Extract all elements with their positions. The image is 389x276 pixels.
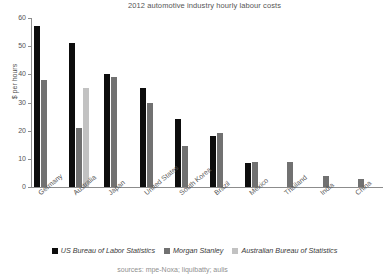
footer-note: sources: mpe-Noxa; liquibatty; aulis — [0, 266, 389, 276]
bar-group — [277, 18, 312, 187]
footer-note-text: sources: mpe-Noxa; liquibatty; aulis — [117, 266, 228, 273]
bar — [175, 119, 181, 187]
y-axis-tick-label: 0 — [2, 183, 26, 190]
bar-group — [66, 18, 101, 187]
x-axis-label-cell: Brazil — [207, 189, 242, 244]
legend-label: Morgan Stanley — [173, 246, 223, 255]
legend-item[interactable]: Australian Bureau of Statistics — [232, 246, 337, 255]
legend-item[interactable]: US Bureau of Labor Statistics — [52, 246, 155, 255]
bar-group — [242, 18, 277, 187]
y-axis-tick-label: 40 — [2, 70, 26, 77]
y-axis-tick-label: 60 — [2, 14, 26, 21]
bar-groups — [31, 18, 383, 187]
bar — [83, 88, 89, 187]
bar — [34, 26, 40, 187]
bar — [104, 74, 110, 187]
x-axis-label-cell: Germany — [31, 189, 66, 244]
x-axis-label-cell: Australia — [66, 189, 101, 244]
x-axis-labels: GermanyAustraliaJapanUnited StatesSouth … — [31, 189, 383, 244]
chart-legend: US Bureau of Labor StatisticsMorgan Stan… — [0, 246, 389, 255]
x-axis-label-cell: South Korea — [172, 189, 207, 244]
bar — [210, 136, 216, 187]
legend-swatch-icon — [164, 248, 170, 254]
bar — [140, 88, 146, 187]
x-axis-label-cell: Japan — [101, 189, 136, 244]
bar-group — [348, 18, 383, 187]
x-axis-label-cell: Mexico — [242, 189, 277, 244]
y-axis-tick-label: 10 — [2, 155, 26, 162]
bar — [111, 77, 117, 187]
y-axis-tick-label: 30 — [2, 99, 26, 106]
legend-swatch-icon — [52, 248, 58, 254]
bar-group — [137, 18, 172, 187]
bar — [76, 128, 82, 187]
bar — [69, 43, 75, 187]
x-axis-label-cell: China — [348, 189, 383, 244]
x-axis-label-cell: India — [313, 189, 348, 244]
legend-label: US Bureau of Labor Statistics — [61, 246, 155, 255]
bar — [217, 133, 223, 187]
x-axis-label-cell: Thailand — [277, 189, 312, 244]
legend-item[interactable]: Morgan Stanley — [164, 246, 223, 255]
bar-group — [31, 18, 66, 187]
bar-group — [172, 18, 207, 187]
legend-label: Australian Bureau of Statistics — [241, 246, 337, 255]
x-axis-label-cell: United States — [137, 189, 172, 244]
chart-container: 2012 automotive industry hourly labour c… — [0, 0, 389, 276]
bar — [41, 80, 47, 187]
bar-group — [101, 18, 136, 187]
y-axis-tick-label: 50 — [2, 42, 26, 49]
bar — [147, 103, 153, 188]
bar-group — [207, 18, 242, 187]
y-axis-tick-label: 20 — [2, 127, 26, 134]
bar — [245, 163, 251, 187]
legend-swatch-icon — [232, 248, 238, 254]
bar — [182, 146, 188, 187]
bar-group — [313, 18, 348, 187]
